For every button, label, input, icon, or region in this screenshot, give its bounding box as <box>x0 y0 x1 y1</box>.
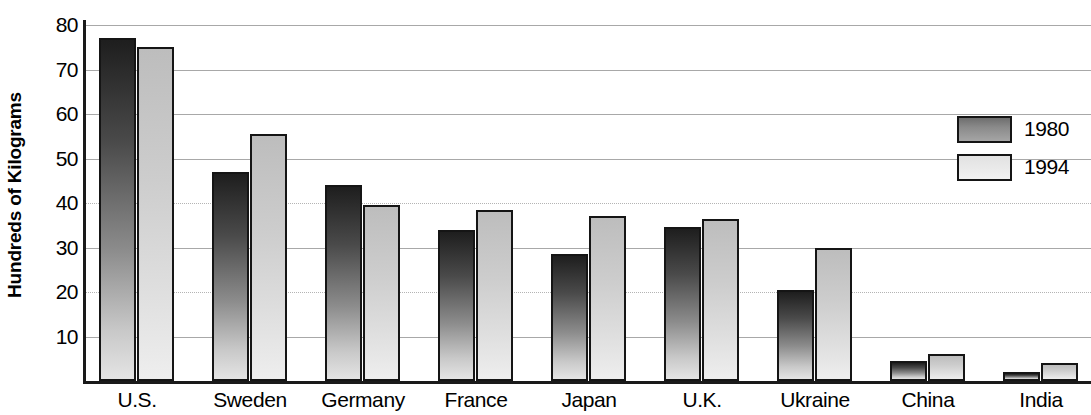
bar-us-1994 <box>137 47 174 381</box>
y-axis-title-text: Hundreds of Kilograms <box>4 92 26 298</box>
y-tick-label-50: 50 <box>32 147 78 171</box>
bar-china-1980 <box>890 361 927 381</box>
bar-chart: Hundreds of Kilograms 8070605040302010 U… <box>0 0 1091 415</box>
bar-germany-1994 <box>363 205 400 381</box>
legend-label-1994: 1994 <box>1024 155 1069 179</box>
gridline-70 <box>83 70 1091 71</box>
bar-india-1980 <box>1003 372 1040 381</box>
y-tick-label-60: 60 <box>32 102 78 126</box>
x-label-germany: Germany <box>321 388 405 412</box>
y-tick-label-10: 10 <box>32 325 78 349</box>
bar-india-1994 <box>1041 363 1078 381</box>
x-label-france: France <box>445 388 508 412</box>
bar-japan-1994 <box>589 216 626 381</box>
x-axis-line <box>83 381 1091 384</box>
x-label-sweden: Sweden <box>213 388 287 412</box>
bar-ukraine-1994 <box>815 248 852 382</box>
y-tick-label-30: 30 <box>32 236 78 260</box>
legend-item-1994: 1994 <box>957 148 1091 186</box>
x-label-india: India <box>1019 388 1063 412</box>
gridline-60 <box>83 114 1091 115</box>
bar-germany-1980 <box>325 185 362 381</box>
legend-swatch-1980 <box>957 116 1012 143</box>
x-label-japan: Japan <box>561 388 616 412</box>
bar-china-1994 <box>928 354 965 381</box>
y-tick-label-40: 40 <box>32 191 78 215</box>
gridline-50 <box>83 159 1091 160</box>
bar-japan-1980 <box>551 254 588 381</box>
bar-france-1980 <box>438 230 475 381</box>
x-label-ukraine: Ukraine <box>780 388 850 412</box>
bar-sweden-1994 <box>250 134 287 381</box>
y-axis-title: Hundreds of Kilograms <box>0 0 30 390</box>
bar-uk-1994 <box>702 219 739 381</box>
bar-sweden-1980 <box>212 172 249 381</box>
gridline-80 <box>83 25 1091 26</box>
y-tick-label-80: 80 <box>32 13 78 37</box>
legend: 19801994 <box>957 110 1091 186</box>
legend-label-1980: 1980 <box>1024 117 1069 141</box>
bar-ukraine-1980 <box>777 290 814 381</box>
legend-swatch-1994 <box>957 154 1012 181</box>
x-label-uk: U.K. <box>682 388 721 412</box>
x-label-china: China <box>902 388 955 412</box>
y-tick-label-20: 20 <box>32 280 78 304</box>
y-axis-tick-labels: 8070605040302010 <box>28 0 78 384</box>
y-axis-line <box>83 20 86 384</box>
bar-us-1980 <box>99 38 136 381</box>
x-label-us: U.S. <box>117 388 156 412</box>
bar-france-1994 <box>476 210 513 381</box>
bar-uk-1980 <box>664 227 701 381</box>
legend-item-1980: 1980 <box>957 110 1091 148</box>
y-tick-label-70: 70 <box>32 58 78 82</box>
plot-area: U.S.SwedenGermanyFranceJapanU.K.UkraineC… <box>83 0 1091 384</box>
